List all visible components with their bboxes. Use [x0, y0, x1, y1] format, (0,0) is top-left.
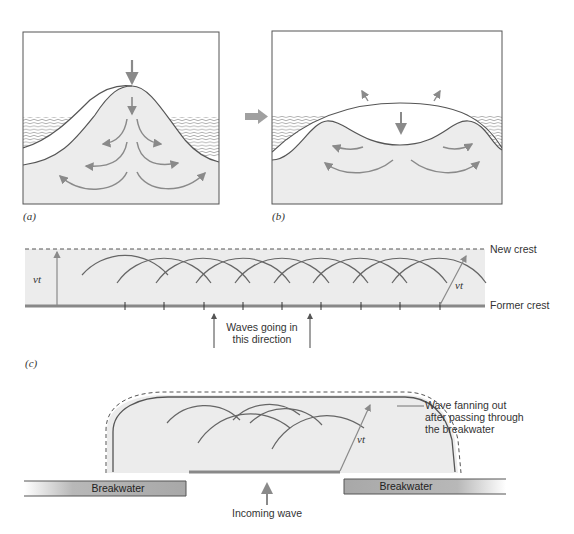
fanning-label-line1: Wave fanning out — [425, 399, 506, 411]
fanning-label-line3: the breakwater — [425, 423, 495, 435]
vt-label-left: vt — [33, 273, 42, 285]
direction-label-line2: this direction — [233, 333, 292, 345]
breakwater-left-label: Breakwater — [91, 482, 145, 494]
former-crest-label: Former crest — [490, 299, 550, 311]
transition-arrow-icon — [245, 109, 268, 124]
new-crest-label: New crest — [490, 243, 537, 255]
figure-a-caption: (a) — [23, 210, 36, 223]
vt-label-breakwater: vt — [357, 433, 366, 445]
figure-c-caption: (c) — [25, 357, 38, 370]
figure-b — [272, 31, 502, 204]
direction-label-line1: Waves going in — [226, 321, 298, 333]
figure-c — [25, 249, 486, 310]
figure-breakwater — [106, 392, 461, 473]
breakwater-right-label: Breakwater — [379, 480, 433, 492]
incoming-wave-label: Incoming wave — [232, 507, 302, 519]
vt-label-right: vt — [455, 279, 464, 291]
figure-b-caption: (b) — [272, 210, 285, 223]
wave-diagram: (a) (b) — [0, 0, 574, 534]
fanning-label-line2: after passing through — [425, 411, 524, 423]
figure-a — [23, 32, 219, 204]
